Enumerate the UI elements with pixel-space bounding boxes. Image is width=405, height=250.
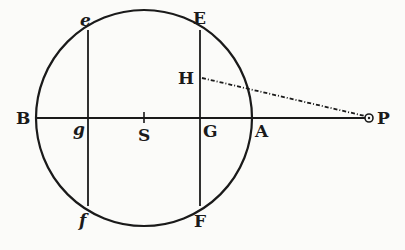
label-H: H	[178, 70, 194, 87]
dashed-line-HP	[202, 78, 365, 116]
label-f: f	[79, 212, 86, 229]
label-F: F	[194, 213, 206, 230]
label-P: P	[377, 110, 390, 127]
label-E: E	[193, 10, 206, 27]
label-A: A	[255, 123, 268, 140]
label-G: G	[203, 123, 218, 140]
label-e: e	[80, 12, 91, 29]
label-B: B	[16, 110, 30, 127]
label-g: g	[73, 121, 85, 138]
point-P-dot	[368, 117, 370, 119]
label-S: S	[138, 127, 150, 144]
